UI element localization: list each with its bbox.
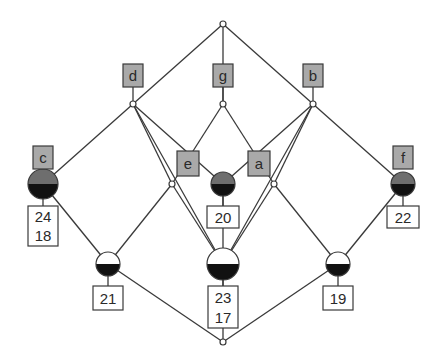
edge-top-b	[223, 24, 313, 104]
attribute-label-e[interactable]: e	[177, 151, 199, 176]
lattice-node-bottom[interactable]	[220, 339, 226, 345]
object-label-19[interactable]: 19	[323, 286, 353, 310]
object-label-21[interactable]: 21	[93, 286, 123, 310]
object-label-19-text: 19	[330, 290, 347, 307]
object-label-23[interactable]: 23 17	[208, 286, 238, 328]
object-label-23-line2: 17	[215, 309, 232, 326]
edge-top-d	[133, 24, 223, 104]
lattice-node-21[interactable]	[96, 252, 120, 276]
lattice-node-a[interactable]	[271, 181, 277, 187]
object-label-23-line1: 23	[215, 289, 232, 306]
attribute-label-g-text: g	[219, 67, 227, 84]
lattice-node-23[interactable]	[207, 248, 239, 280]
object-label-c-line1: 24	[35, 208, 52, 225]
lattice-node-19[interactable]	[326, 252, 350, 276]
concept-lattice-diagram: d g b c e a f 24 18 20 22 21	[0, 0, 439, 361]
edge-d-n23	[133, 104, 223, 264]
object-label-f[interactable]: 22	[387, 206, 419, 228]
lattice-node-top[interactable]	[220, 21, 226, 27]
lattice-node-f[interactable]	[391, 172, 415, 196]
attribute-label-b-text: b	[309, 67, 317, 84]
edge-e-n21	[108, 184, 172, 264]
lattice-node-b[interactable]	[310, 101, 316, 107]
lattice-node-c[interactable]	[28, 169, 58, 199]
edge-n19-bottom	[223, 264, 338, 342]
attribute-label-e-text: e	[184, 155, 192, 172]
attribute-label-d-text: d	[129, 67, 137, 84]
edge-b-a	[274, 104, 313, 184]
lattice-node-g[interactable]	[220, 101, 226, 107]
edge-b-f	[313, 104, 403, 184]
attribute-label-a-text: a	[255, 155, 264, 172]
lattice-node-e[interactable]	[169, 181, 175, 187]
attribute-label-b[interactable]: b	[303, 64, 323, 87]
edge-a-n19	[274, 184, 338, 264]
lattice-node-ea[interactable]	[211, 172, 235, 196]
object-label-ea[interactable]: 20	[207, 206, 239, 228]
object-label-21-text: 21	[100, 290, 117, 307]
attribute-label-c-text: c	[39, 149, 47, 166]
attribute-label-c[interactable]: c	[33, 146, 53, 169]
attribute-label-d[interactable]: d	[123, 64, 143, 87]
edge-d-c	[43, 104, 133, 184]
attribute-label-a[interactable]: a	[248, 151, 270, 176]
object-label-f-text: 22	[395, 209, 412, 226]
attribute-label-f[interactable]: f	[393, 146, 413, 169]
edge-d-e	[133, 104, 172, 184]
attribute-label-g[interactable]: g	[213, 64, 233, 87]
edge-n21-bottom	[108, 264, 223, 342]
edge-b-n23	[223, 104, 313, 264]
object-label-c[interactable]: 24 18	[28, 206, 58, 246]
object-label-c-line2: 18	[35, 227, 52, 244]
lattice-node-d[interactable]	[130, 101, 136, 107]
object-label-ea-text: 20	[215, 209, 232, 226]
